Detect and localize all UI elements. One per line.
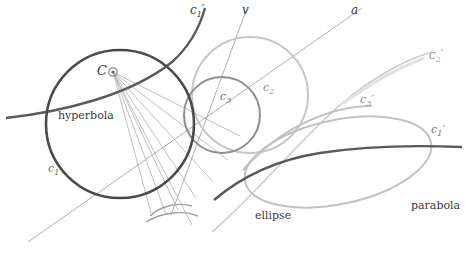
label-text: ellipse <box>255 209 291 222</box>
circle-c2-arc-lower <box>192 95 308 153</box>
label-text: hyperbola <box>58 109 114 122</box>
label-c1-prime-right: c1′ <box>431 124 445 138</box>
curve-c3-prime-path <box>243 106 372 170</box>
label-text: v <box>242 3 249 17</box>
label-hyperbola: hyperbola <box>58 110 114 121</box>
label-parabola: parabola <box>411 200 460 211</box>
label-c2: c2 <box>263 82 274 96</box>
ray-c-8 <box>113 72 192 225</box>
circle-c1 <box>46 50 194 198</box>
ellipse-curve <box>236 101 439 223</box>
label-a: a <box>351 4 358 16</box>
ray-c-5 <box>113 72 228 160</box>
curve-c2-prime <box>212 52 432 232</box>
label-text: parabola <box>411 199 460 212</box>
ray-c-2 <box>113 72 178 210</box>
label-c3: c3 <box>220 91 231 105</box>
label-prime: ′ <box>441 48 444 62</box>
label-prime: ′ <box>202 3 205 17</box>
label-prime: ′ <box>442 123 445 136</box>
label-c3-prime: c3′ <box>360 94 374 108</box>
label-text: C <box>97 63 107 78</box>
center-marker <box>109 68 117 76</box>
label-text: c <box>429 48 436 62</box>
label-prime: ′ <box>371 93 374 106</box>
curve-c3-prime <box>243 106 372 170</box>
label-c1-prime-top: c1′ <box>190 4 205 19</box>
diagram-canvas: c1′ v a c2′ C c2 c3 c3′ hyperbola c1′ c1… <box>0 0 475 254</box>
curve-c2-prime-dash <box>344 58 424 103</box>
center-dot-inner <box>111 70 114 73</box>
label-text: c <box>190 3 197 17</box>
circle-c2 <box>192 37 308 153</box>
ray-c-3 <box>113 72 196 198</box>
label-subscript: 2 <box>269 87 274 96</box>
light-curves <box>212 52 432 232</box>
ellipse-outline <box>236 101 439 223</box>
label-subscript: 1 <box>54 168 59 177</box>
label-subscript: 3 <box>226 96 231 105</box>
diagram-svg <box>0 0 475 254</box>
label-c1: c1 <box>48 163 59 177</box>
ray-c-1 <box>113 72 166 214</box>
vertex-arcs <box>146 204 198 222</box>
label-c2-prime: c2′ <box>429 49 444 64</box>
label-text: a <box>351 3 358 17</box>
vertex-arc-2 <box>146 213 198 222</box>
label-center-c: C <box>97 64 107 77</box>
label-v: v <box>242 4 249 16</box>
label-ellipse: ellipse <box>255 210 291 221</box>
circle-c1-outline <box>46 50 194 198</box>
